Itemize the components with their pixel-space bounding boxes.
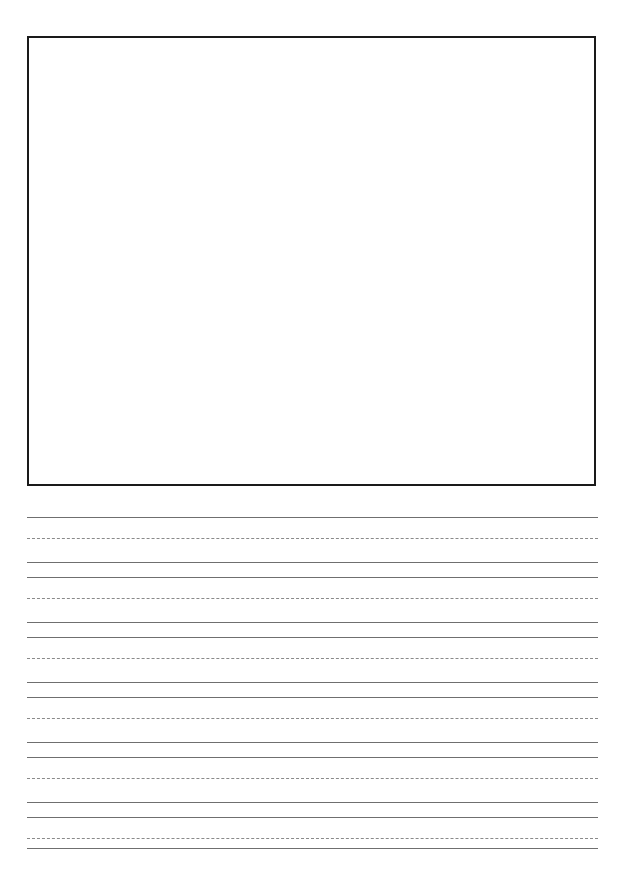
writing-line-midline [27,778,598,779]
worksheet-page [0,0,627,876]
writing-line-baseline [27,682,598,683]
illustration-box[interactable] [27,36,596,486]
writing-line-top [27,697,598,698]
writing-line-top [27,577,598,578]
writing-line-midline [27,718,598,719]
writing-line-midline [27,838,598,839]
writing-line-midline [27,658,598,659]
writing-line-baseline [27,802,598,803]
writing-line-midline [27,538,598,539]
writing-line-baseline [27,848,598,849]
writing-line-baseline [27,622,598,623]
writing-line-top [27,637,598,638]
writing-line-top [27,817,598,818]
writing-line-baseline [27,562,598,563]
writing-line-top [27,757,598,758]
writing-line-top [27,517,598,518]
writing-line-midline [27,598,598,599]
writing-line-baseline [27,742,598,743]
